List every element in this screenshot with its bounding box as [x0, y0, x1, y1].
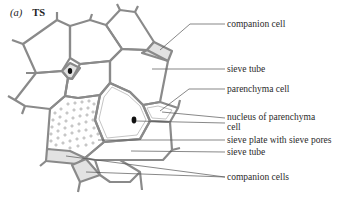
section-type: TS: [32, 7, 45, 18]
panel-letter: (a): [10, 7, 22, 18]
label-parenchyma-cell: parenchyma cell: [227, 84, 290, 94]
phloem-ts-diagram: [0, 0, 355, 197]
label-companion-cells: companion cells: [227, 172, 289, 182]
label-nucleus-of-parenchyma-cell: nucleus of parenchyma: [227, 112, 315, 122]
label-companion-cell: companion cell: [227, 19, 285, 29]
parenchyma-nucleus: [132, 117, 137, 124]
label-nucleus-of-parenchyma-cell-line2: cell: [227, 122, 241, 132]
label-sieve-plate: sieve plate with sieve pores: [227, 135, 331, 145]
companion-cell-nucleus: [68, 68, 72, 74]
label-sieve-tube-2: sieve tube: [227, 147, 265, 157]
panel-label: (a)TS: [10, 7, 45, 18]
label-sieve-tube-1: sieve tube: [227, 64, 265, 74]
cell-walls: [8, 4, 180, 192]
sieve-pores: [50, 100, 99, 149]
